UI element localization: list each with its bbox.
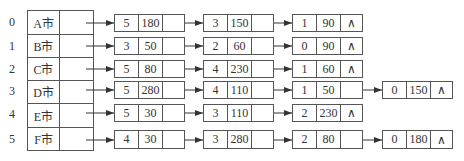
edge-weight: 50 — [317, 82, 341, 98]
edge-weight: 110 — [228, 105, 252, 121]
adj-vertex: 2 — [204, 38, 228, 54]
adj-vertex: 1 — [293, 15, 317, 31]
adj-vertex: 1 — [293, 61, 317, 77]
adjacency-list-diagram: 0 1 2 3 4 5 A市 B市 C市 D市 E市 F市 — [0, 0, 464, 161]
next-pointer — [252, 38, 273, 54]
edge-node: 0 150 ∧ — [382, 81, 453, 99]
edge-node: 0 180 ∧ — [382, 130, 453, 149]
edge-weight: 90 — [317, 15, 341, 31]
edge-node: 5 80 — [114, 60, 185, 78]
adj-vertex: 1 — [293, 82, 317, 98]
edge-weight: 80 — [139, 61, 163, 77]
edge-node: 4 110 — [203, 81, 274, 99]
next-pointer — [341, 82, 362, 98]
edge-weight: 30 — [139, 131, 163, 148]
edge-node: 3 50 — [114, 37, 185, 55]
adj-vertex: 5 — [115, 105, 139, 121]
edge-weight: 280 — [139, 82, 163, 98]
next-pointer — [252, 105, 273, 121]
edge-node: 3 150 — [203, 14, 274, 32]
edge-node: 1 60 ∧ — [292, 60, 363, 78]
edge-weight: 80 — [317, 131, 341, 148]
next-pointer — [341, 131, 362, 148]
adj-vertex: 0 — [383, 131, 407, 148]
adj-vertex: 3 — [204, 131, 228, 148]
adj-vertex: 0 — [383, 82, 407, 98]
adj-vertex: 5 — [115, 15, 139, 31]
edge-node: 4 230 — [203, 60, 274, 78]
next-pointer — [163, 15, 184, 31]
edge-weight: 60 — [317, 61, 341, 77]
edge-weight: 110 — [228, 82, 252, 98]
adj-vertex: 4 — [204, 61, 228, 77]
edge-node: 5 180 — [114, 14, 185, 32]
adj-vertex: 3 — [204, 15, 228, 31]
next-pointer — [252, 131, 273, 148]
next-pointer — [163, 82, 184, 98]
adj-vertex: 2 — [293, 131, 317, 148]
adj-vertex: 4 — [204, 82, 228, 98]
null-pointer-icon: ∧ — [341, 105, 362, 121]
edge-weight: 30 — [139, 105, 163, 121]
next-pointer — [163, 38, 184, 54]
null-pointer-icon: ∧ — [341, 15, 362, 31]
null-pointer-icon: ∧ — [341, 38, 362, 54]
next-pointer — [163, 105, 184, 121]
edge-weight: 150 — [407, 82, 431, 98]
edge-weight: 50 — [139, 38, 163, 54]
next-pointer — [252, 82, 273, 98]
edge-weight: 230 — [228, 61, 252, 77]
edge-node: 1 90 ∧ — [292, 14, 363, 32]
edge-node: 3 280 — [203, 130, 274, 149]
edge-node: 5 30 — [114, 104, 185, 122]
null-pointer-icon: ∧ — [431, 82, 452, 98]
edge-weight: 230 — [317, 105, 341, 121]
edge-node: 2 230 ∧ — [292, 104, 363, 122]
edge-weight: 280 — [228, 131, 252, 148]
adj-vertex: 3 — [204, 105, 228, 121]
edge-node: 1 50 — [292, 81, 363, 99]
next-pointer — [252, 15, 273, 31]
next-pointer — [163, 61, 184, 77]
edge-weight: 60 — [228, 38, 252, 54]
edge-node: 2 60 — [203, 37, 274, 55]
edge-node: 2 80 — [292, 130, 363, 149]
adj-vertex: 2 — [293, 105, 317, 121]
null-pointer-icon: ∧ — [341, 61, 362, 77]
adj-vertex: 5 — [115, 82, 139, 98]
edge-node: 5 280 — [114, 81, 185, 99]
adj-vertex: 4 — [115, 131, 139, 148]
edge-node: 3 110 — [203, 104, 274, 122]
next-pointer — [163, 131, 184, 148]
edge-weight: 180 — [139, 15, 163, 31]
adj-vertex: 3 — [115, 38, 139, 54]
edge-weight: 150 — [228, 15, 252, 31]
adj-vertex: 5 — [115, 61, 139, 77]
next-pointer — [252, 61, 273, 77]
edge-node: 4 30 — [114, 130, 185, 149]
adj-vertex: 0 — [293, 38, 317, 54]
edge-weight: 180 — [407, 131, 431, 148]
null-pointer-icon: ∧ — [431, 131, 452, 148]
edge-node: 0 90 ∧ — [292, 37, 363, 55]
edge-weight: 90 — [317, 38, 341, 54]
